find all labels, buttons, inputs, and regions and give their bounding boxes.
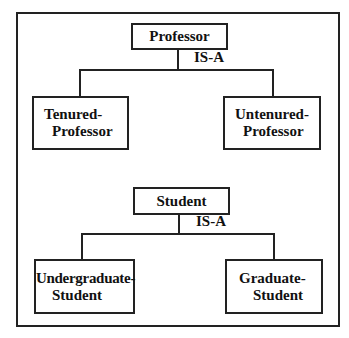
undergraduate-line1: Undergraduate-	[36, 270, 133, 287]
student-label: Student	[156, 193, 206, 210]
tenured-line2: Professor	[44, 123, 127, 140]
graduate-line1: Graduate-	[239, 270, 321, 287]
professor-branch-line	[79, 69, 274, 71]
undergraduate-student-node: Undergraduate- Student	[34, 259, 135, 314]
graduate-student-node: Graduate- Student	[225, 259, 323, 314]
professor-label: Professor	[149, 28, 210, 45]
tenured-professor-node: Tenured- Professor	[32, 96, 129, 150]
student-node: Student	[133, 187, 230, 215]
untenured-line1: Untenured-	[235, 106, 319, 123]
untenured-professor-node: Untenured- Professor	[223, 96, 321, 150]
student-is-a-label: IS-A	[196, 214, 226, 229]
graduate-line2: Student	[239, 287, 321, 304]
undergraduate-line2: Student	[36, 287, 133, 304]
professor-node: Professor	[131, 23, 228, 50]
graduate-connector	[273, 233, 275, 260]
tenured-connector	[79, 69, 81, 97]
professor-is-a-label: IS-A	[194, 50, 224, 65]
untenured-line2: Professor	[235, 123, 319, 140]
student-branch-line	[81, 233, 275, 235]
professor-stem	[177, 49, 179, 71]
untenured-connector	[272, 69, 274, 97]
tenured-line1: Tenured-	[44, 106, 127, 123]
undergraduate-connector	[81, 233, 83, 260]
student-stem	[178, 214, 180, 234]
